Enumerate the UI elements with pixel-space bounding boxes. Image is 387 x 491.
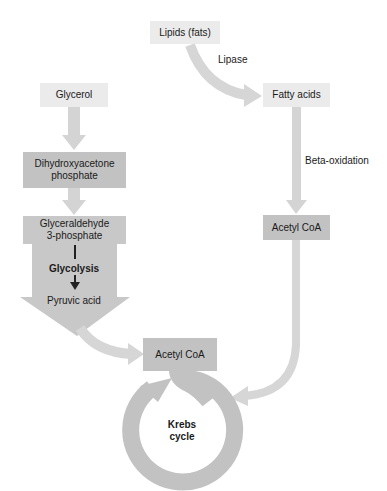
- acetyl-coa-right-label: Acetyl CoA: [272, 222, 321, 234]
- g3p-box: Glyceraldehyde 3-phosphate: [23, 216, 126, 244]
- glycerol-label: Glycerol: [56, 89, 93, 101]
- lipase-label: Lipase: [218, 54, 247, 66]
- krebs-label-line2: cycle: [169, 431, 194, 443]
- acetyl-coa-center-box: Acetyl CoA: [143, 338, 217, 371]
- g3p-label-line2: 3-phosphate: [47, 230, 103, 242]
- pyruvic-to-acetyl-arrow: [80, 328, 144, 365]
- dhap-label-line1: Dihydroxyacetone: [34, 158, 114, 170]
- dhap-box: Dihydroxyacetone phosphate: [23, 152, 126, 188]
- glycerol-box: Glycerol: [40, 83, 108, 107]
- lipids-label: Lipids (fats): [159, 27, 211, 39]
- lipids-box: Lipids (fats): [150, 21, 220, 44]
- beta-oxidation-arrow: [286, 107, 307, 214]
- g3p-label-line1: Glyceraldehyde: [40, 218, 109, 230]
- krebs-label-line1: Krebs: [168, 419, 196, 431]
- beta-oxidation-label: Beta-oxidation: [305, 155, 369, 167]
- dhap-arrow: [62, 188, 86, 215]
- krebs-cycle-label: Krebs cycle: [152, 418, 212, 444]
- acetyl-coa-center-label: Acetyl CoA: [155, 349, 204, 361]
- glycolysis-label: Glycolysis: [49, 263, 99, 275]
- acetyl-coa-right-box: Acetyl CoA: [263, 215, 330, 240]
- fatty-acids-box: Fatty acids: [263, 83, 330, 107]
- fatty-acids-label: Fatty acids: [272, 89, 320, 101]
- pyruvic-acid-label: Pyruvic acid: [47, 295, 101, 307]
- acetyl-to-krebs-arrow: [230, 240, 296, 406]
- glycerol-arrow: [62, 107, 86, 150]
- dhap-label-line2: phosphate: [51, 170, 98, 182]
